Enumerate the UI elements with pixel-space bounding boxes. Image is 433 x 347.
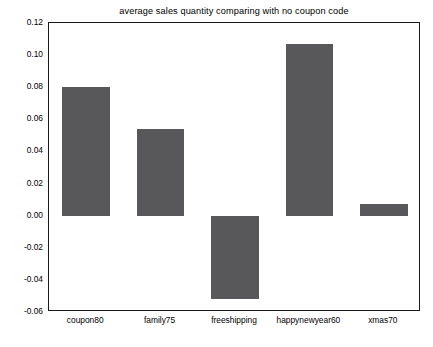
- y-tick-label: -0.02: [4, 242, 43, 252]
- bar-family75: [137, 129, 185, 216]
- bar-freeshipping: [211, 216, 259, 299]
- bar-chart-figure: average sales quantity comparing with no…: [0, 0, 433, 347]
- y-tick-label: -0.04: [4, 274, 43, 284]
- x-axis: coupon80family75freeshippinghappynewyear…: [48, 315, 420, 333]
- x-tick-label: freeshipping: [211, 315, 257, 325]
- bar-coupon80: [62, 87, 110, 215]
- y-tick-label: 0.08: [4, 81, 43, 91]
- plot-area: [48, 22, 420, 311]
- x-tick-label: xmas70: [368, 315, 397, 325]
- y-tick-label: 0.02: [4, 178, 43, 188]
- y-tick-label: -0.06: [4, 306, 43, 316]
- bar-happynewyear60: [286, 44, 334, 216]
- y-tick-label: 0.12: [4, 17, 43, 27]
- y-tick-label: 0.06: [4, 113, 43, 123]
- bar-xmas70: [360, 204, 408, 215]
- y-tick-label: 0.00: [4, 210, 43, 220]
- y-tick-label: 0.10: [4, 49, 43, 59]
- y-tick-label: 0.04: [4, 145, 43, 155]
- x-tick-label: family75: [144, 315, 175, 325]
- x-tick-label: coupon80: [67, 315, 104, 325]
- x-tick-label: happynewyear60: [276, 315, 340, 325]
